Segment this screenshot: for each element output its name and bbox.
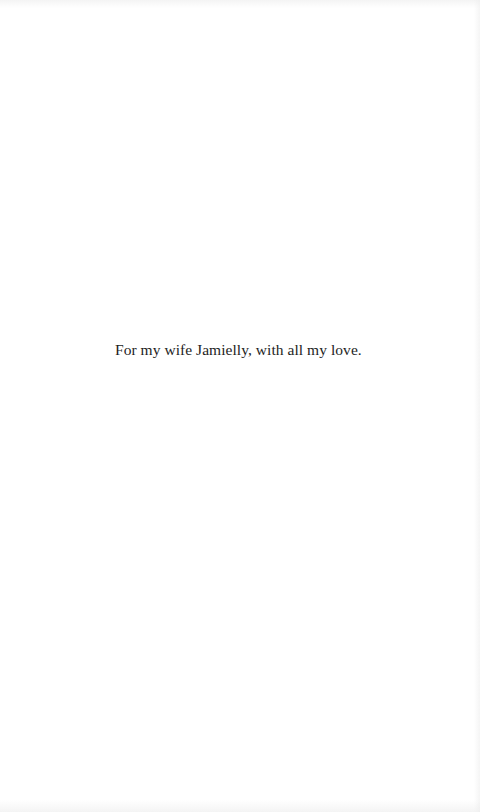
book-page: For my wife Jamielly, with all my love. bbox=[0, 0, 480, 812]
page-right-edge bbox=[474, 0, 480, 812]
page-bottom-edge bbox=[0, 800, 480, 812]
dedication-text: For my wife Jamielly, with all my love. bbox=[115, 340, 362, 360]
page-top-edge bbox=[0, 0, 480, 8]
